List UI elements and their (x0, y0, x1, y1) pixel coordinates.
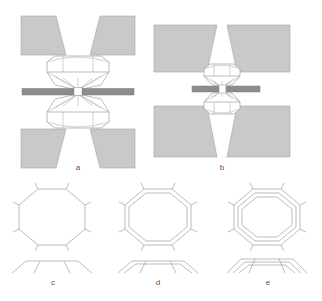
panel-a-wedge-upper-left (21, 16, 66, 55)
panel-a-wedge-upper-right (90, 16, 135, 55)
panel-b-center-gap (219, 85, 226, 93)
panel-a-center-bar-right (82, 89, 134, 96)
panel-b (154, 25, 290, 157)
panel-a (21, 16, 135, 168)
panel-c (12, 183, 92, 273)
panel-e-side-profile (227, 259, 307, 273)
panel-c-octagon-ring-1 (19, 189, 85, 245)
panel-label-e: e (258, 278, 278, 288)
panel-d (118, 183, 198, 273)
panel-d-octagon-ring-1 (125, 189, 191, 245)
panel-b-center-bar-left (192, 86, 219, 92)
panel-b-wedge-upper-right (227, 25, 290, 72)
panel-c-side-profile (12, 261, 92, 273)
panel-e (227, 183, 307, 273)
figure-container: .wedge { fill: #c9c9c9; stroke: #a5a5a5;… (0, 0, 322, 301)
panel-b-center-bar-right (226, 86, 260, 92)
panel-label-b: b (212, 163, 232, 173)
panel-d-octagon-ring-2 (129, 193, 187, 241)
panel-label-c: c (43, 278, 63, 288)
panel-c-vertex-ticks (13, 183, 91, 251)
diagram-canvas: .wedge { fill: #c9c9c9; stroke: #a5a5a5;… (0, 0, 322, 301)
panel-a-center-bar-left (22, 89, 74, 96)
panel-label-d: d (148, 278, 168, 288)
panel-label-a: a (68, 163, 88, 173)
panel-d-side-profile (118, 261, 198, 273)
panel-b-wedge-lower-left (154, 106, 217, 157)
panel-e-octagon-ring-3 (242, 197, 292, 237)
panel-a-wedge-lower-left (21, 129, 66, 168)
panel-e-octagon-ring-2 (238, 193, 296, 241)
panel-a-center-gap (74, 88, 82, 96)
panel-a-wedge-lower-right (90, 129, 135, 168)
panel-b-wedge-upper-left (154, 25, 217, 72)
panel-b-wedge-lower-right (227, 106, 290, 157)
